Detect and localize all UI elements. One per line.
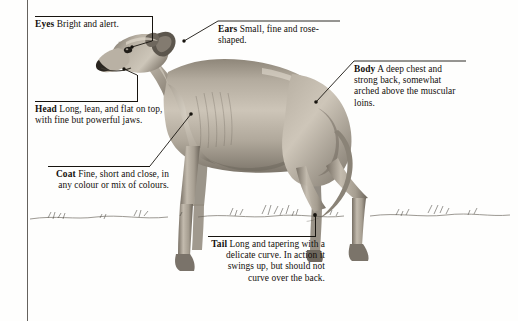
callout-ears-term: Ears — [218, 24, 237, 34]
callout-head: Head Long, lean, and flat on top, with f… — [35, 104, 167, 126]
callout-eyes-text: Bright and alert. — [54, 19, 118, 29]
callout-eyes: Eyes Bright and alert. — [35, 19, 153, 30]
callout-tail-term: Tail — [211, 239, 227, 249]
callout-ears: Ears Small, fine and rose-shaped. — [218, 24, 338, 46]
callout-coat-text: Fine, short and close, in any colour or … — [58, 169, 169, 190]
callout-tail-text: Long and tapering with a delicate curve.… — [226, 239, 325, 283]
callout-coat-term: Coat — [56, 169, 76, 179]
figure-page: Eyes Bright and alert. Head Long, lean, … — [0, 0, 518, 321]
callout-tail: Tail Long and tapering with a delicate c… — [208, 239, 325, 284]
callout-coat: Coat Fine, short and close, in any colou… — [48, 169, 169, 191]
callout-eyes-term: Eyes — [35, 19, 54, 29]
callout-body: Body A deep chest and strong back, somew… — [354, 64, 466, 109]
callout-body-term: Body — [354, 64, 375, 74]
callout-head-term: Head — [35, 104, 57, 114]
